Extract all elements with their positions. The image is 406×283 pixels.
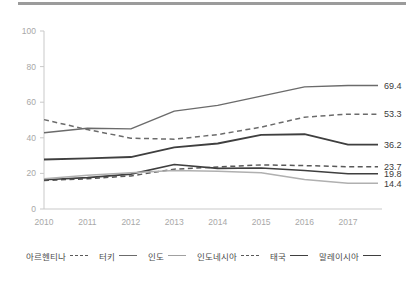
series-end-value-label: 14.4 bbox=[384, 179, 402, 189]
legend-item-label: 태국 bbox=[270, 250, 286, 262]
series-line-1 bbox=[44, 85, 378, 132]
legend-item-3[interactable]: 인도네시아 bbox=[197, 250, 259, 262]
y-axis-tick-label: 0 bbox=[31, 204, 36, 214]
x-axis-tick-label: 2012 bbox=[121, 217, 140, 227]
legend-swatch-solid-icon bbox=[363, 252, 381, 260]
legend-item-1[interactable]: 터키 bbox=[99, 250, 137, 262]
x-axis-tick-label: 2017 bbox=[339, 217, 358, 227]
y-axis-tick-label: 60 bbox=[27, 97, 37, 107]
legend-line-sample bbox=[168, 255, 186, 256]
series-line-3 bbox=[44, 134, 378, 159]
legend-line-sample bbox=[290, 255, 308, 256]
legend-item-4[interactable]: 태국 bbox=[270, 250, 308, 262]
y-axis-tick-label: 100 bbox=[22, 26, 36, 36]
legend-swatch-solid-icon bbox=[119, 252, 137, 260]
legend-swatch-solid-icon bbox=[168, 252, 186, 260]
x-axis-tick-group: 20102011201220132014201520162017 bbox=[35, 217, 358, 227]
x-axis-tick-label: 2010 bbox=[35, 217, 54, 227]
legend-item-label: 터키 bbox=[99, 250, 115, 262]
series-end-value-label: 53.3 bbox=[384, 109, 402, 119]
x-axis-tick-label: 2015 bbox=[252, 217, 271, 227]
series-end-value-label: 69.4 bbox=[384, 81, 402, 91]
x-axis-tick-label: 2011 bbox=[78, 217, 97, 227]
legend-item-0[interactable]: 아르헨티나 bbox=[26, 250, 88, 262]
end-label-group: 23.769.453.336.219.814.4 bbox=[384, 81, 402, 189]
series-line-2 bbox=[44, 114, 378, 139]
legend-line-sample bbox=[119, 255, 137, 256]
y-axis-tick-label: 20 bbox=[27, 168, 37, 178]
legend-item-2[interactable]: 인도 bbox=[148, 250, 186, 262]
legend-item-label: 인도네시아 bbox=[197, 250, 237, 262]
series-end-value-label: 36.2 bbox=[384, 140, 402, 150]
series-end-value-label: 19.8 bbox=[384, 169, 402, 179]
x-axis-tick-label: 2016 bbox=[295, 217, 314, 227]
legend-item-5[interactable]: 말레이시아 bbox=[319, 250, 381, 262]
legend-line-sample bbox=[241, 255, 259, 256]
y-axis-tick-label: 80 bbox=[27, 62, 37, 72]
legend-line-sample bbox=[70, 255, 88, 256]
chart-container: 020406080100 201020112012201320142015201… bbox=[0, 0, 406, 283]
line-chart-plot: 020406080100 201020112012201320142015201… bbox=[0, 0, 406, 283]
series-group bbox=[44, 85, 378, 183]
legend-swatch-dashed-icon bbox=[241, 252, 259, 260]
legend-item-label: 인도 bbox=[148, 250, 164, 262]
y-axis-tick-label: 40 bbox=[27, 133, 37, 143]
chart-legend: 아르헨티나터키인도인도네시아태국말레이시아 bbox=[0, 243, 406, 269]
x-axis-tick-label: 2013 bbox=[165, 217, 184, 227]
legend-swatch-solid-icon bbox=[290, 252, 308, 260]
x-axis-tick-label: 2014 bbox=[208, 217, 227, 227]
y-axis-tick-group: 020406080100 bbox=[22, 26, 44, 214]
legend-item-label: 아르헨티나 bbox=[26, 250, 66, 262]
legend-line-sample bbox=[363, 255, 381, 256]
legend-item-label: 말레이시아 bbox=[319, 250, 359, 262]
legend-swatch-dashed-icon bbox=[70, 252, 88, 260]
